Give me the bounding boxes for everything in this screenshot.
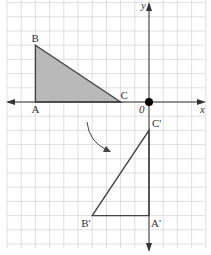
vertex-label-b: B: [31, 32, 38, 44]
y-axis-arrow-down-icon: [146, 243, 152, 252]
rotation-arrow-icon: [87, 122, 107, 150]
y-axis-arrow-up-icon: [146, 2, 152, 11]
vertex-label-a-prime: A': [151, 217, 161, 229]
x-axis-label: x: [199, 103, 205, 115]
y-axis-label: y: [140, 0, 146, 11]
vertex-label-b-prime: B': [81, 217, 90, 229]
coordinate-plane: x y 0 A B C A' B' C': [0, 0, 211, 255]
origin-label: 0: [139, 103, 145, 115]
vertex-label-c-prime: C': [152, 117, 161, 129]
vertex-label-c: C: [121, 89, 128, 101]
origin-point: [145, 98, 153, 106]
vertex-label-a: A: [31, 103, 39, 115]
